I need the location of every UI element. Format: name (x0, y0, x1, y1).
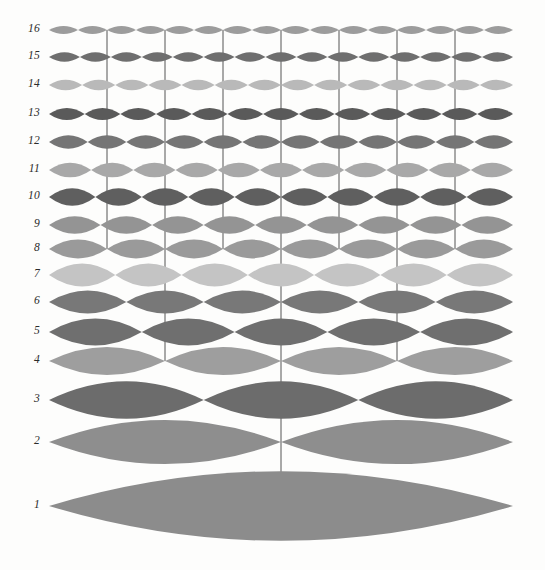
antinode-lobe (447, 264, 513, 287)
antinode-lobe (49, 108, 85, 120)
antinode-lobe (327, 188, 373, 205)
antinode-lobe (455, 240, 513, 259)
antinode-lobe (115, 80, 148, 91)
antinode-lobe (482, 52, 513, 61)
antinode-lobe (347, 80, 380, 91)
antinode-lobe (133, 163, 175, 178)
antinode-lobe (152, 216, 204, 233)
antinode-lobe (223, 26, 252, 34)
antinode-lobe (467, 188, 513, 205)
row-label-8: 8 (14, 241, 40, 253)
antinode-lobe (49, 291, 126, 314)
antinode-lobe (242, 135, 281, 148)
antinode-lobe (339, 26, 368, 34)
antinode-lobe (480, 80, 513, 91)
antinode-lobe (49, 216, 101, 233)
antinode-lobe (192, 108, 228, 120)
antinode-lobe (314, 80, 347, 91)
antinode-lobe (368, 26, 397, 34)
antinode-lobe (80, 52, 111, 61)
row-label-16: 16 (14, 22, 40, 34)
antinode-lobe (358, 216, 410, 233)
antinode-lobe (474, 135, 513, 148)
antinode-lobe (49, 420, 281, 464)
antinode-lobe (436, 291, 513, 314)
antinode-lobe (327, 52, 358, 61)
antinode-lobe (194, 26, 223, 34)
antinode-lobe (204, 381, 359, 419)
antinode-lobe (49, 135, 88, 148)
antinode-lobe (281, 80, 314, 91)
antinode-lobe (165, 347, 281, 375)
antinode-lobe (204, 52, 235, 61)
antinode-lobe (461, 216, 513, 233)
antinode-lobe (420, 188, 466, 205)
antinode-lobe (397, 135, 436, 148)
antinode-lobe (429, 163, 471, 178)
row-label-9: 9 (14, 217, 40, 229)
antinode-lobe (426, 26, 455, 34)
antinode-lobe (107, 26, 136, 34)
antinode-lobe (142, 188, 188, 205)
antinode-lobe (296, 52, 327, 61)
antinode-lobe (299, 108, 335, 120)
antinode-lobe (204, 135, 243, 148)
antinode-lobe (126, 135, 165, 148)
antinode-lobe (49, 347, 165, 375)
antinode-lobe (397, 347, 513, 375)
antinode-lobe (420, 52, 451, 61)
harmonic-row-13 (49, 108, 513, 120)
antinode-lobe (358, 135, 397, 148)
antinode-lobe (484, 26, 513, 34)
antinode-lobe (281, 291, 358, 314)
antinode-lobe (335, 108, 371, 120)
antinode-lobe (370, 108, 406, 120)
antinode-lobe (471, 163, 513, 178)
antinode-lobe (204, 216, 256, 233)
antinode-lobe (88, 135, 127, 148)
antinode-lobe (307, 216, 359, 233)
row-label-3: 3 (14, 392, 40, 404)
antinode-lobe (281, 420, 513, 464)
antinode-lobe (252, 26, 281, 34)
antinode-lobe (281, 26, 310, 34)
antinode-lobe (120, 108, 156, 120)
antinode-lobe (266, 52, 297, 61)
antinode-lobe (235, 52, 266, 61)
antinode-lobe (442, 108, 478, 120)
antinode-lobe (235, 319, 328, 346)
antinode-lobe (320, 135, 359, 148)
antinode-lobe (235, 188, 281, 205)
antinode-lobe (447, 80, 480, 91)
antinode-lobe (49, 240, 107, 259)
antinode-lobe (358, 52, 389, 61)
antinode-lobe (156, 108, 192, 120)
antinode-lobe (91, 163, 133, 178)
antinode-lobe (165, 26, 194, 34)
row-label-4: 4 (14, 353, 40, 365)
antinode-lobe (410, 216, 462, 233)
antinode-lobe (406, 108, 442, 120)
antinode-lobe (380, 80, 413, 91)
antinode-lobe (176, 163, 218, 178)
harmonic-row-15 (49, 52, 513, 61)
row-label-15: 15 (14, 49, 40, 61)
antinode-lobe (218, 163, 260, 178)
antinode-lobe (314, 264, 380, 287)
row-label-6: 6 (14, 294, 40, 306)
antinode-lobe (281, 240, 339, 259)
antinode-lobe (107, 240, 165, 259)
antinode-lobe (310, 26, 339, 34)
antinode-lobe (115, 264, 181, 287)
antinode-lobe (255, 216, 307, 233)
row-label-7: 7 (14, 267, 40, 279)
antinode-lobe (477, 108, 513, 120)
antinode-lobe (339, 240, 397, 259)
antinode-lobe (142, 52, 173, 61)
antinode-lobe (78, 26, 107, 34)
antinode-lobe (420, 319, 513, 346)
antinode-lobe (101, 216, 153, 233)
antinode-lobe (380, 264, 446, 287)
antinode-lobe (85, 108, 121, 120)
antinode-lobe (148, 80, 181, 91)
